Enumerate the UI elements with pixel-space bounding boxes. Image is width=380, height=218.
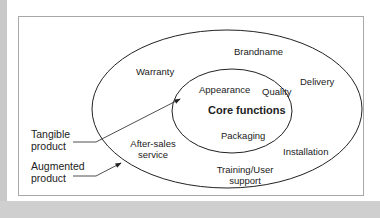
diagram-shapes (0, 0, 380, 218)
label-installation: Installation (283, 146, 328, 157)
label-augmented-product: Augmented product (31, 160, 85, 184)
label-warranty: Warranty (136, 66, 174, 77)
label-augmented-line1: Augmented (31, 160, 85, 172)
label-packaging: Packaging (221, 130, 265, 141)
label-training-user-support: Training/User support (215, 164, 275, 186)
tangible-product-arrow (73, 99, 180, 142)
label-brandname: Brandname (234, 46, 283, 57)
label-delivery: Delivery (300, 76, 334, 87)
label-after-sales-service: After-sales service (125, 138, 181, 160)
label-tangible-product: Tangible product (31, 128, 70, 152)
label-aftersales-line2: service (125, 149, 181, 160)
label-core-functions: Core functions (208, 105, 286, 116)
label-tangible-line1: Tangible (31, 128, 70, 140)
label-augmented-line2: product (31, 172, 85, 184)
label-tangible-line2: product (31, 140, 70, 152)
label-appearance: Appearance (199, 84, 250, 95)
label-quality: Quality (262, 86, 292, 97)
label-training-line2: support (215, 175, 275, 186)
label-aftersales-line1: After-sales (125, 138, 181, 149)
label-training-line1: Training/User (215, 164, 275, 175)
